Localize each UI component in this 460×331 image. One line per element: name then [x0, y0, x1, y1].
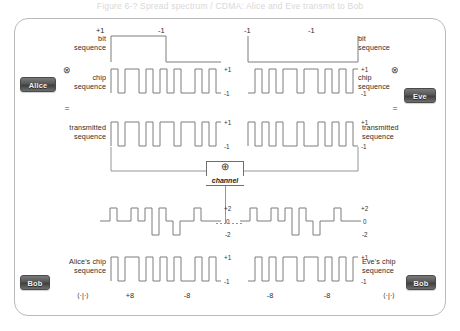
right-channel-connector [240, 147, 359, 173]
right-bit-waveform [247, 33, 359, 63]
left-transmitted-axis-high: +1 [224, 119, 231, 126]
left-transmitted-axis-low: -1 [224, 143, 230, 150]
left-sum-axis-low: -2 [225, 231, 231, 238]
party-badge-eve[interactable]: Eve [404, 88, 436, 103]
left-transmitted-sequence-label: transmittedsequence [36, 124, 106, 141]
right-receiver-axis-low: -1 [361, 278, 367, 285]
right-sum-waveform [240, 206, 362, 236]
zero-axis-line [216, 222, 242, 225]
left-receiver-chip-label: Alice's chipsequence [32, 258, 106, 275]
left-chip-waveform [110, 68, 222, 94]
left-transmitted-waveform [110, 121, 222, 147]
left-receiver-chip-waveform [110, 256, 222, 282]
right-transmitted-sequence-label: transmittedsequence [362, 124, 442, 141]
right-transmitted-waveform [247, 121, 359, 147]
left-inner-product-symbol: ⟨·|·⟩ [58, 291, 108, 300]
left-sum-waveform [100, 206, 222, 236]
right-sum-axis-high: +2 [361, 205, 368, 212]
right-receiver-chip-label: Eve's chipsequence [362, 258, 442, 275]
right-equals-icon: = [388, 104, 402, 113]
right-inner-product-symbol: ⟨·|·⟩ [364, 291, 414, 300]
right-sum-axis-low: -2 [362, 231, 368, 238]
left-receiver-axis-high: +1 [224, 254, 231, 261]
right-receiver-axis-high: +1 [361, 254, 368, 261]
channel-adder-icon: ⊕ [214, 162, 236, 171]
right-chip-axis-high: +1 [361, 66, 368, 73]
left-inner-product-value-2: -8 [172, 291, 202, 300]
left-inner-product-value-1: +8 [115, 291, 145, 300]
left-bit-sequence-label: bitsequence [44, 35, 106, 52]
left-channel-connector [110, 147, 220, 173]
left-chip-axis-high: +1 [224, 66, 231, 73]
right-inner-product-value-1: -8 [255, 291, 285, 300]
party-badge-alice[interactable]: Alice [20, 77, 56, 92]
right-inner-product-value-2: -8 [312, 291, 342, 300]
right-receiver-chip-waveform [247, 256, 359, 282]
left-receiver-axis-low: -1 [224, 278, 230, 285]
channel-label: channel [204, 176, 246, 185]
right-chip-axis-low: -1 [361, 90, 367, 97]
receiver-badge-bob-right[interactable]: Bob [406, 275, 436, 290]
figure-caption-faint: Figure 6-? Spread spectrum / CDMA: Alice… [0, 0, 460, 12]
cdma-figure-root: Figure 6-? Spread spectrum / CDMA: Alice… [0, 0, 460, 331]
right-sum-axis-mid: 0 [363, 218, 367, 225]
receiver-badge-bob-left[interactable]: Bob [20, 275, 50, 290]
right-chip-waveform [247, 68, 359, 94]
left-bit-waveform [110, 33, 222, 63]
left-sum-axis-high: +2 [224, 205, 231, 212]
right-transmitted-axis-high: +1 [361, 119, 368, 126]
right-bit-sequence-label: bitsequence [358, 35, 428, 52]
left-chip-axis-low: -1 [224, 90, 230, 97]
left-equals-icon: = [60, 104, 74, 113]
right-transmitted-axis-low: -1 [361, 143, 367, 150]
